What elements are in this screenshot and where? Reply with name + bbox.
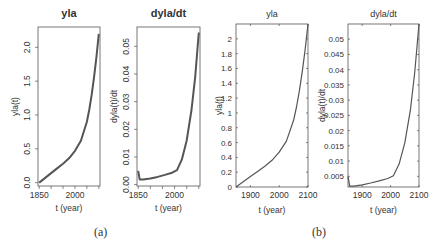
a-yla-ytick-label: 0.5 [22,143,32,155]
a-yla-ytick-label: 1.5 [22,75,32,87]
a-dyla-xtick-label: 1850 [129,190,148,200]
b-dyla-plot-frame [348,24,419,187]
a-yla-ylabel: yla(t) [10,97,20,116]
b-yla-ytick-label: 1.4 [221,79,233,88]
b-dyla-title: dyla/dt [370,9,397,19]
a-dyla-xlabel: t (year) [155,203,182,213]
b-yla-title: yla [266,9,278,19]
caption-b: (b) [312,225,326,240]
b-yla-ytick-label: 0.4 [221,153,233,162]
b-dyla-ytick-label: 0.03 [328,96,344,105]
a-dyla-ytick-label: 0.04 [121,65,131,82]
b-yla-ytick-label: 0.2 [221,168,233,177]
b-dyla-ytick-label: 0.01 [328,157,344,166]
a-yla-ytick-label: 2.0 [22,41,32,53]
b-dyla-series-line [348,24,419,186]
b-yla-ytick-label: 1.8 [221,50,233,59]
b-yla-ytick-label: 0.8 [221,124,233,133]
b-yla-ytick-label: 0.6 [221,139,233,148]
a-dyla-ytick-label: 0.02 [121,121,131,138]
b-dyla-ytick-label: 0.005 [324,172,345,181]
a-yla-ytick-label: 1.0 [22,109,32,121]
a-dyla-ylabel: dyla(t)/dt [109,89,119,123]
a-yla-series-line [39,34,99,183]
a-yla-xtick-label: 1850 [30,190,49,200]
a-dyla-xtick-label: 2000 [165,190,184,200]
b-yla-xtick-label: 1900 [241,190,260,200]
b-dyla-ytick-label: 0.045 [324,50,345,59]
b-dyla-ytick-label: 0.025 [324,111,345,120]
b-yla-ytick-label: 0 [228,183,233,192]
b-dyla-xtick-label: 2100 [410,190,429,200]
b-dyla-ytick-label: 0.015 [324,142,345,151]
b-yla-ytick-label: 1 [228,109,233,118]
b-dyla-ylabel: dyla(t)/dt [317,88,327,122]
a-yla-xtick-label: 2000 [66,190,85,200]
b-yla-xtick-label: 2100 [299,190,318,200]
b-yla-ylabel: yla(t) [214,96,224,115]
b-dyla-ytick-label: 0.04 [328,66,344,75]
a-dyla-series-line [138,33,199,180]
a-dyla-ytick-label: 0.03 [121,93,131,110]
b-yla-ytick-label: 1.6 [221,64,233,73]
b-dyla-xtick-label: 2000 [381,190,400,200]
b-dyla-xlabel: t (year) [370,205,397,215]
a-dyla-ytick-label: 0.00 [121,176,131,193]
b-dyla-ytick-label: 0.05 [328,35,344,44]
a-dyla-ytick-label: 0.05 [121,38,131,55]
b-dyla-ytick-label: 0.035 [324,81,345,90]
a-dyla-plot-frame [137,27,200,186]
b-yla-xlabel: t (year) [259,205,286,215]
b-dyla-xtick-label: 1900 [353,190,372,200]
figure: yla185020000.00.51.01.52.0t (year)yla(t)… [0,0,437,251]
caption-a: (a) [94,225,107,240]
b-dyla-ytick-label: 0.02 [328,127,344,136]
a-yla-title: yla [61,7,77,19]
b-yla-series-line [236,24,308,187]
a-yla-ytick-label: 0.0 [22,176,32,188]
a-dyla-ytick-label: 0.01 [121,148,131,165]
b-yla-ytick-label: 2 [228,35,233,44]
a-dyla-title: dyla/dt [151,7,187,19]
a-yla-xlabel: t (year) [56,203,83,213]
b-yla-xtick-label: 2000 [270,190,289,200]
